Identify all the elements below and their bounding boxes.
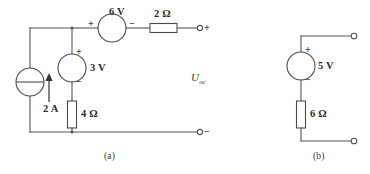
label-open-circuit-voltage: Uoc xyxy=(191,72,206,86)
label-3v-minus: − xyxy=(76,77,82,87)
circuit-figure: 6 V + − 2 Ω + − 3 V + − 2 A 4 Ω Uoc (a) … xyxy=(0,0,370,174)
current-direction-arrow-head xyxy=(45,73,52,81)
label-terminal-positive: + xyxy=(204,23,210,33)
label-6v-minus: − xyxy=(129,19,135,29)
label-2a-value: 2 A xyxy=(43,104,58,115)
label-5v-value: 5 V xyxy=(318,61,334,72)
label-terminal-negative: − xyxy=(204,127,210,137)
terminal-b-top[interactable] xyxy=(351,33,357,39)
resistor-4ohm-symbol xyxy=(68,101,77,128)
label-5v-minus: − xyxy=(305,75,311,85)
label-3v-value: 3 V xyxy=(90,63,106,74)
uoc-subscript: oc xyxy=(199,78,206,86)
resistor-6ohm-symbol xyxy=(297,101,306,128)
node-dot-top xyxy=(71,27,74,30)
label-4ohm-value: 4 Ω xyxy=(81,109,98,120)
terminal-b-bottom[interactable] xyxy=(351,138,357,144)
label-6v-value: 6 V xyxy=(109,7,125,18)
label-6ohm-value: 6 Ω xyxy=(310,109,327,120)
voltage-source-6v-symbol xyxy=(98,14,126,42)
label-6v-plus: + xyxy=(88,19,94,29)
label-2ohm-value: 2 Ω xyxy=(154,9,171,20)
label-5v-plus: + xyxy=(305,45,311,55)
uoc-symbol: U xyxy=(191,71,199,83)
caption-b: (b) xyxy=(313,152,325,162)
resistor-2ohm-symbol xyxy=(150,24,177,33)
node-dot-bottom xyxy=(71,131,74,134)
caption-a: (a) xyxy=(104,152,115,162)
label-3v-plus: + xyxy=(76,47,82,57)
circuit-schematic-canvas xyxy=(0,0,370,174)
terminal-positive[interactable] xyxy=(197,25,202,30)
terminal-negative[interactable] xyxy=(197,129,202,134)
